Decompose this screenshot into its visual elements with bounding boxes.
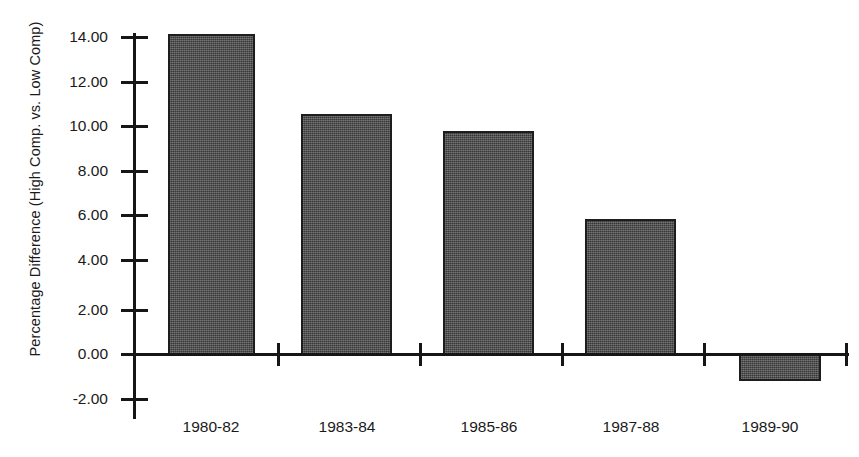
x-axis-zero-line [133,353,849,356]
y-tick-label-14: 14.00 [22,29,108,45]
y-tick-label-2: 2.00 [22,302,108,318]
x-tick-label-1980-82: 1980-82 [151,419,271,435]
x-tick-mark-4 [703,343,706,366]
x-tick-mark-2 [419,343,422,366]
x-tick-mark-1 [277,343,280,366]
y-tick-label-neg2: -2.00 [22,391,108,407]
bar-1980-82 [168,34,255,355]
x-tick-mark-5 [845,343,848,366]
y-axis-line [133,33,136,419]
x-tick-label-1983-84: 1983-84 [287,419,407,435]
bar-1983-84 [301,114,392,355]
y-tick-label-6: 6.00 [22,207,108,223]
x-tick-label-1989-90: 1989-90 [710,419,830,435]
bar-chart: Percentage Difference (High Comp. vs. Lo… [0,0,859,457]
y-tick-label-4: 4.00 [22,252,108,268]
bar-1987-88 [585,219,676,355]
y-tick-label-8: 8.00 [22,163,108,179]
bar-1989-90 [739,354,821,381]
x-tick-label-1987-88: 1987-88 [571,419,691,435]
x-tick-label-1985-86: 1985-86 [429,419,549,435]
y-tick-label-12: 12.00 [22,74,108,90]
bar-1985-86 [443,131,534,355]
x-tick-mark-3 [561,343,564,366]
y-tick-label-10: 10.00 [22,118,108,134]
y-tick-label-0: 0.00 [22,346,108,362]
plot-area: 14.00 12.00 10.00 8.00 6.00 4.00 2.00 0.… [0,0,859,457]
